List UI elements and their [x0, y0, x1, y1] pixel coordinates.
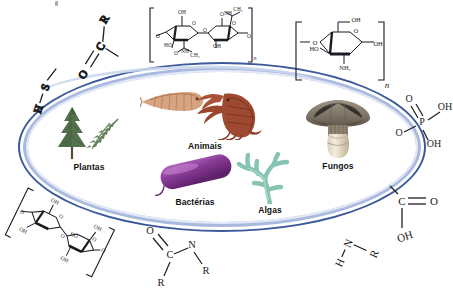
- lobster-shape: [197, 94, 262, 141]
- atom-OH-cell-4: OH: [60, 255, 70, 264]
- atom-C: C: [93, 40, 107, 53]
- atom-OH-cell-3: OH: [93, 223, 103, 232]
- atom-O-glyco: O: [203, 27, 207, 33]
- atom-OH-2: OH: [213, 43, 221, 49]
- atom-NH-1: NH: [181, 48, 189, 54]
- atom-O: O: [75, 68, 89, 81]
- seaweed-icon: [232, 148, 308, 204]
- atom-O-link1: O: [156, 33, 160, 39]
- atom-O-cell-ring1: O: [58, 213, 64, 220]
- atom-HO-cell: HO: [69, 231, 79, 240]
- subscript-n-chitin: n: [254, 55, 257, 61]
- atom-H: H: [31, 103, 45, 114]
- atom-OH-chitosan-right: OH: [373, 40, 383, 47]
- organism-group-fungos: Fungos: [300, 98, 376, 171]
- chem-structure-chitin: OH O O HO NH O CH₃ O O O CH₃ NH OH O n: [148, 2, 260, 68]
- chem-structure-carboxyl: C O OH: [386, 178, 450, 256]
- atom-O-phosphate-link: O: [395, 127, 402, 138]
- mushroom-icon: [300, 98, 376, 160]
- atom-R-amide-2: R: [202, 265, 209, 276]
- atom-O-double-phosphate: O: [405, 93, 412, 104]
- organism-group-algas: Algas: [232, 148, 308, 215]
- atom-R-amine: R: [367, 247, 381, 259]
- atom-O-ring-chitosan: O: [354, 27, 359, 34]
- atom-O-carboxyl: O: [430, 195, 438, 207]
- chem-structure-amide: O C N R R: [140, 218, 224, 292]
- atom-OH-carboxyl: OH: [395, 228, 414, 244]
- organism-group-animais: Animais: [140, 86, 270, 151]
- atom-OH-1: OH: [178, 9, 186, 15]
- organism-label-fungos: Fungos: [300, 161, 376, 171]
- atom-O-carbonyl1: O: [174, 50, 178, 56]
- atom-OH-cell-1: OH: [50, 197, 60, 206]
- atom-O-cell-link2: O: [100, 247, 106, 254]
- atom-CH3-2: CH₃: [233, 6, 242, 12]
- organism-label-plantas: Plantas: [46, 162, 132, 172]
- organism-label-algas: Algas: [232, 205, 308, 215]
- atom-HO-chitosan: HO: [309, 45, 319, 52]
- atom-H-amine: H: [332, 256, 346, 268]
- atom-O-cell-link1: O: [19, 208, 25, 215]
- atom-S: S: [38, 82, 51, 92]
- figure-canvas: Plantas: [0, 0, 453, 296]
- atom-HO-1: HO: [164, 42, 172, 48]
- subscript-n-chitosan: n: [385, 80, 390, 90]
- atom-P: P: [419, 116, 425, 127]
- atom-NH-2: NH: [224, 10, 232, 16]
- atom-O-ring2: O: [232, 20, 236, 26]
- atom-O-cell-glyco: O: [59, 232, 65, 239]
- atom-O-ring1: O: [192, 20, 196, 26]
- atom-N-amine: N: [341, 237, 355, 249]
- shrimp-and-lobster-icon: [140, 86, 270, 140]
- shrimp-shape: [140, 92, 203, 111]
- atom-N-amide: N: [188, 239, 196, 250]
- atom-OH-phosphate-2: OH: [427, 138, 441, 149]
- atom-R: R: [97, 12, 111, 25]
- chem-structure-phosphate: O P OH O OH: [392, 92, 452, 160]
- chem-structure-cellulose: OH O O OH O HO O OH OH O: [4, 182, 114, 282]
- atom-OH-phosphate-1: OH: [438, 101, 452, 112]
- atom-C-amide: C: [166, 249, 173, 260]
- chem-structure-amine: H N R: [322, 206, 388, 278]
- atom-O-link2: O: [247, 33, 251, 39]
- atom-R-amide-1: R: [157, 277, 164, 288]
- atom-O-amide: O: [146, 225, 154, 236]
- chem-structure-chitosan: O OH O HO NH₂ OH n: [286, 12, 398, 96]
- atom-CH3-1: CH₃: [190, 52, 199, 58]
- chem-structure-thiol: H S: [14, 52, 76, 122]
- atom-OH-chitosan-top: OH: [351, 16, 361, 23]
- atom-C-carboxyl: C: [398, 195, 405, 207]
- atom-NH2-chitosan: NH₂: [339, 64, 350, 71]
- scan-artifact: [55, 1, 58, 6]
